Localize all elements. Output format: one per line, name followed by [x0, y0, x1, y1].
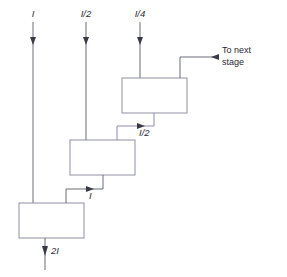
- next-stage-label-line1: To next: [222, 45, 252, 55]
- input-arrowhead-1: [30, 37, 36, 45]
- interstage-wire-lower-group: [66, 175, 103, 203]
- input-arrowhead-2: [83, 37, 89, 45]
- interstage-wire-lower: [66, 175, 103, 203]
- input-label-2: I/2: [81, 8, 92, 19]
- ladder-diagram-canvas: I I/2 I/4 I/2 I 2I To next stage: [0, 0, 287, 277]
- input-arrowhead-3: [137, 37, 143, 45]
- next-stage-label-line2: stage: [222, 57, 244, 67]
- output-arrowhead: [42, 246, 48, 256]
- next-stage-wire-group: [180, 54, 219, 78]
- stage-box-bottom: [19, 203, 84, 238]
- input-line-2-group: [83, 22, 89, 140]
- input-label-3: I/4: [135, 8, 146, 19]
- input-line-3-group: [137, 22, 143, 78]
- input-label-1: I: [32, 8, 35, 19]
- output-wire-group: [42, 238, 48, 270]
- input-line-1-group: [30, 22, 36, 203]
- next-stage-arrowhead: [211, 54, 219, 60]
- output-label: 2I: [50, 245, 59, 256]
- next-stage-wire: [180, 57, 218, 78]
- interstage-label-upper: I/2: [139, 127, 150, 138]
- interstage-label-lower: I: [89, 190, 92, 201]
- ladder-diagram: I I/2 I/4 I/2 I 2I To next stage: [0, 0, 287, 277]
- stage-box-top: [122, 78, 187, 113]
- stage-box-middle: [70, 140, 135, 175]
